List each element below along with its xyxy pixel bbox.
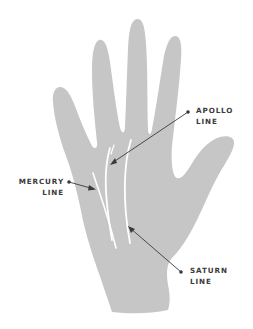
mercury-line-label: MERCURY LINE	[14, 177, 64, 198]
saturn-label-line2: LINE	[190, 277, 228, 288]
saturn-line-label: SATURN LINE	[190, 266, 228, 287]
apollo-line-label: APOLLO LINE	[196, 106, 233, 127]
saturn-label-line1: SATURN	[190, 266, 228, 277]
apollo-label-line1: APOLLO	[196, 106, 233, 117]
apollo-label-line2: LINE	[196, 117, 233, 128]
mercury-label-line2: LINE	[14, 188, 64, 199]
mercury-label-line1: MERCURY	[14, 177, 64, 188]
